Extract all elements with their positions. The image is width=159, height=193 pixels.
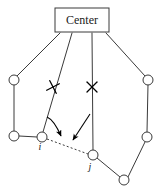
cut-marks-group — [47, 81, 97, 94]
center-box-label: Center — [66, 13, 98, 27]
arrow-right-to-dashed — [73, 114, 90, 140]
edge-right-bottom-to-right-top — [147, 85, 148, 132]
node-bottom — [119, 175, 129, 185]
node-left-bottom — [9, 131, 19, 141]
edge-bottom-to-right-bottom — [128, 142, 145, 177]
node-j-label: j — [87, 161, 92, 172]
edge-left-bottom-to-node-i — [19, 136, 37, 137]
arrow-left-to-dashed — [47, 117, 61, 136]
dashed-edges-group — [47, 139, 88, 154]
arrows-group — [47, 114, 90, 140]
dashed-edge-i-to-j — [47, 139, 88, 154]
edge-node-j-to-bottom — [97, 158, 120, 177]
center-box-group: Center — [55, 8, 109, 32]
node-right-bottom — [142, 132, 152, 142]
nodes-group — [9, 75, 153, 185]
node-i-label: i — [39, 141, 42, 152]
node-right-top — [143, 75, 153, 85]
network-diagram: Center ij — [0, 0, 159, 193]
node-j — [88, 150, 98, 160]
edges-group — [14, 33, 148, 177]
node-left-top — [9, 75, 19, 85]
edge-center-to-right-top — [106, 33, 145, 76]
edge-center-to-left-top — [17, 33, 60, 76]
figure-container: Center ij — [0, 0, 159, 193]
node-labels-group: ij — [39, 141, 92, 172]
edge-center-to-node-j — [92, 33, 93, 150]
